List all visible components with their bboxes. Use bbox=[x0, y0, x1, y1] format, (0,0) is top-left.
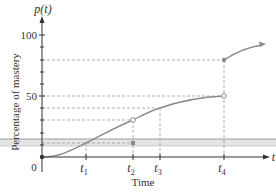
x-tick-t2: t2 bbox=[127, 161, 134, 177]
curve-segment-2 bbox=[224, 45, 262, 60]
x-tick-t1: t1 bbox=[80, 161, 87, 177]
x-tick-t4: t4 bbox=[218, 161, 225, 177]
y-axis-title: Percentage of mastery bbox=[9, 53, 21, 151]
y-axis-arrow-icon bbox=[40, 16, 45, 23]
x-axis-variable: t bbox=[272, 150, 276, 164]
x-tick-t3: t3 bbox=[154, 161, 161, 177]
open-point-t2 bbox=[131, 118, 136, 123]
y-tick-50: 50 bbox=[26, 90, 38, 102]
open-point-t4 bbox=[222, 94, 227, 99]
y-tick-100: 100 bbox=[21, 29, 38, 41]
filled-point-t4 bbox=[222, 58, 226, 62]
marker-t2-band bbox=[131, 141, 135, 145]
origin-label: 0 bbox=[31, 161, 37, 173]
y-axis-variable: p(t) bbox=[33, 2, 51, 16]
mastery-chart: 100 50 0 t1 t2 t3 t4 t p(t) Time Percent… bbox=[0, 0, 276, 192]
curve-arrow-icon bbox=[259, 42, 266, 48]
x-axis-title: Time bbox=[132, 176, 155, 188]
x-axis-arrow-icon bbox=[263, 155, 270, 160]
